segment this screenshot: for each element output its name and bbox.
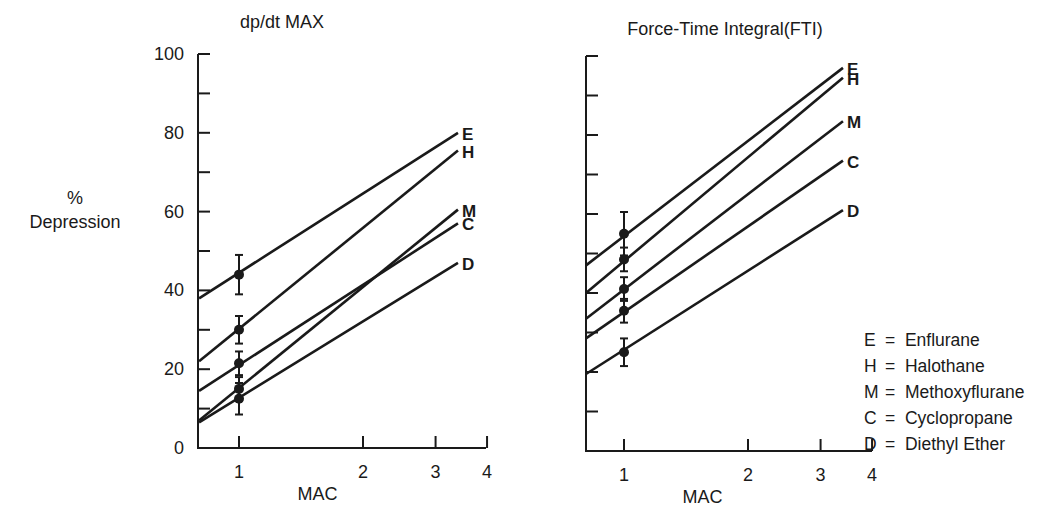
data-point bbox=[234, 394, 244, 404]
x-tick-label: 2 bbox=[743, 465, 753, 485]
y-tick-label: 0 bbox=[174, 438, 184, 458]
legend-key: H bbox=[864, 353, 880, 379]
legend-equals: = bbox=[880, 405, 900, 431]
x-tick-label: 2 bbox=[358, 462, 368, 482]
legend-key: E bbox=[864, 327, 880, 353]
legend-item-diethyl-ether: D= Diethyl Ether bbox=[864, 431, 1025, 457]
legend-equals: = bbox=[880, 379, 900, 405]
y-tick-label: 80 bbox=[164, 123, 184, 143]
series-label: D bbox=[462, 255, 474, 274]
figure: dp/dt MAX0204060801001234MACEHMCDForce-T… bbox=[0, 0, 1061, 517]
y-axis-label-percent: % bbox=[0, 186, 150, 210]
x-tick-label: 4 bbox=[482, 462, 492, 482]
data-point bbox=[619, 284, 629, 294]
y-tick-label: 40 bbox=[164, 280, 184, 300]
chart-panel-2: Force-Time Integral(FTI)1234MACEHMCD bbox=[586, 19, 877, 507]
legend-equals: = bbox=[880, 353, 900, 379]
data-point bbox=[234, 358, 244, 368]
data-point bbox=[619, 254, 629, 264]
data-point bbox=[619, 229, 629, 239]
series-label: C bbox=[847, 153, 859, 172]
x-tick-label: 1 bbox=[234, 462, 244, 482]
x-tick-label: 1 bbox=[619, 465, 629, 485]
data-point bbox=[234, 325, 244, 335]
legend-label: Methoxyflurane bbox=[905, 382, 1025, 402]
legend-item-methoxyflurane: M= Methoxyflurane bbox=[864, 379, 1025, 405]
legend-item-halothane: H= Halothane bbox=[864, 353, 1025, 379]
y-tick-label: 100 bbox=[154, 44, 184, 64]
series-label: H bbox=[847, 70, 859, 89]
data-point bbox=[619, 306, 629, 316]
x-tick-label: 3 bbox=[816, 465, 826, 485]
series-enflurane: E bbox=[199, 125, 473, 298]
legend-key: D bbox=[864, 431, 880, 457]
chart-title: dp/dt MAX bbox=[240, 12, 324, 32]
chart-title: Force-Time Integral(FTI) bbox=[627, 19, 822, 39]
legend-item-cyclopropane: C= Cyclopropane bbox=[864, 405, 1025, 431]
series-enflurane: E bbox=[586, 60, 858, 266]
axes bbox=[586, 56, 872, 451]
x-tick-label: 3 bbox=[431, 462, 441, 482]
legend-item-enflurane: E= Enflurane bbox=[864, 327, 1025, 353]
series-halothane: H bbox=[586, 70, 859, 293]
legend-label: Cyclopropane bbox=[905, 408, 1013, 428]
series-label: M bbox=[847, 113, 861, 132]
series-label: H bbox=[462, 143, 474, 162]
legend-label: Enflurane bbox=[905, 330, 980, 350]
x-tick-label: 4 bbox=[867, 465, 877, 485]
data-point bbox=[619, 347, 629, 357]
legend-equals: = bbox=[880, 327, 900, 353]
legend: E= Enflurane H= Halothane M= Methoxyflur… bbox=[864, 327, 1025, 457]
x-axis-label: MAC bbox=[682, 487, 722, 507]
legend-key: C bbox=[864, 405, 880, 431]
series-cyclopropane: C bbox=[586, 153, 859, 339]
chart-panel-1: dp/dt MAX0204060801001234MACEHMCD bbox=[154, 12, 492, 504]
series-label: C bbox=[462, 215, 474, 234]
y-axis-label: % Depression bbox=[0, 186, 150, 234]
y-axis-label-text: Depression bbox=[0, 210, 150, 234]
y-tick-label: 20 bbox=[164, 359, 184, 379]
data-point bbox=[234, 270, 244, 280]
series-halothane: H bbox=[199, 143, 474, 362]
x-axis-label: MAC bbox=[297, 484, 337, 504]
legend-label: Diethyl Ether bbox=[905, 434, 1005, 454]
series-label: D bbox=[847, 202, 859, 221]
series-methoxyflurane: M bbox=[586, 113, 861, 318]
legend-label: Halothane bbox=[905, 356, 985, 376]
y-tick-label: 60 bbox=[164, 202, 184, 222]
series-methoxyflurane: M bbox=[199, 202, 476, 421]
series-label: E bbox=[462, 125, 473, 144]
series-cyclopropane: C bbox=[199, 215, 474, 390]
series-diethyl-ether: D bbox=[199, 255, 474, 423]
legend-key: M bbox=[864, 379, 880, 405]
legend-equals: = bbox=[880, 431, 900, 457]
